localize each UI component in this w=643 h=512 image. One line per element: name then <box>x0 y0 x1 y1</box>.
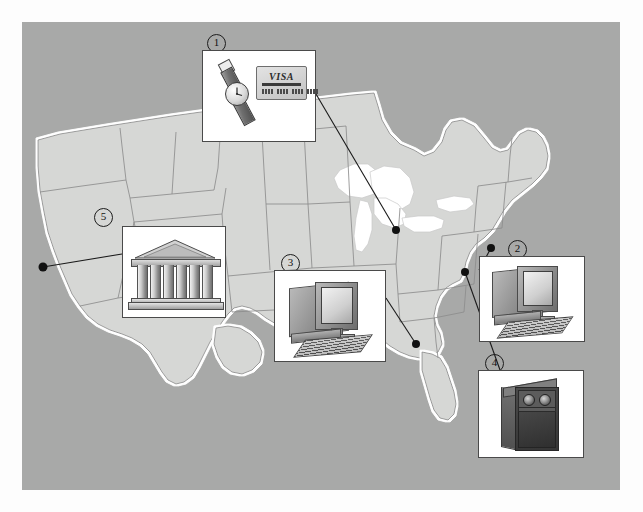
map-canvas: 1 <box>22 22 620 490</box>
card-magnetic-stripe <box>262 83 301 86</box>
callout-marker-5: 5 <box>94 208 113 227</box>
callout-box-2[interactable] <box>479 256 585 342</box>
figure-root: 1 <box>0 0 643 512</box>
callout-box-1[interactable]: VISA <box>202 50 316 142</box>
watch-hands-icon <box>226 83 248 105</box>
callout-overlay: 1 <box>22 22 620 490</box>
credit-card-icon: VISA <box>256 66 307 100</box>
callout-box-3[interactable] <box>274 270 386 362</box>
card-number-blocks <box>262 89 318 94</box>
callout-box-5[interactable] <box>122 226 226 318</box>
pediment-icon <box>133 239 217 261</box>
credit-card-brand: VISA <box>257 71 306 82</box>
callout-box-4[interactable] <box>478 370 584 458</box>
